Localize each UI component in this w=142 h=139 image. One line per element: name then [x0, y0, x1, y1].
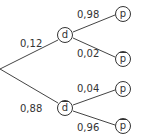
- prob-label-d-p: 0,98: [77, 9, 99, 21]
- prob-label-d-bar: 0,88: [20, 103, 42, 115]
- prob-label-d-p-bar: 0,02: [77, 48, 99, 60]
- prob-label-d: 0,12: [20, 38, 42, 50]
- node-d: d: [57, 27, 73, 43]
- node-d-p-bar: p: [115, 51, 131, 67]
- prob-label-dbar-p-bar: 0,96: [77, 122, 99, 134]
- node-dbar-p: p: [115, 81, 131, 97]
- node-dbar-p-bar: p: [115, 118, 131, 134]
- prob-label-dbar-p: 0,04: [77, 83, 99, 95]
- node-d-p: p: [115, 6, 131, 22]
- node-d-bar: d: [57, 100, 73, 116]
